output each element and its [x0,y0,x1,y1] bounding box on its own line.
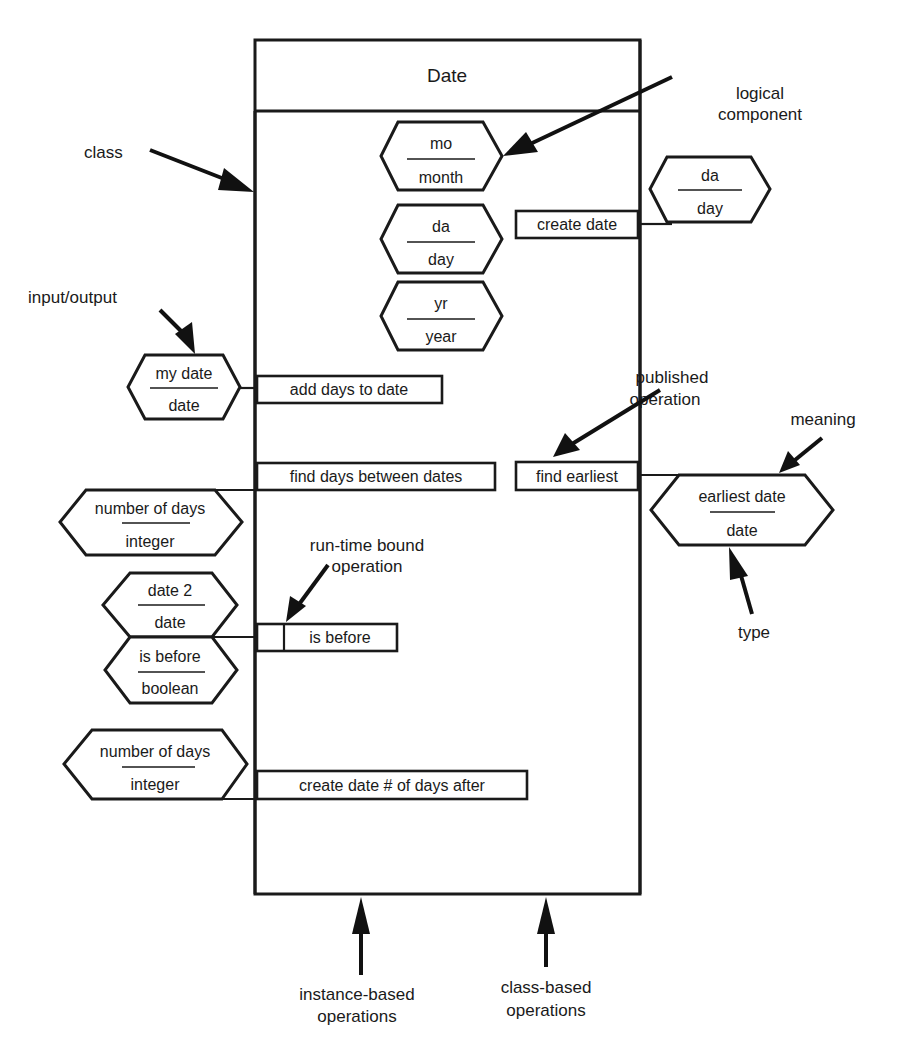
annotation-label: operation [630,390,701,409]
param-type: day [697,200,723,217]
annotation-label: published [636,368,709,387]
operation-label: find earliest [536,468,618,485]
component-type: month [419,169,463,186]
operation-find-days-between-dates[interactable]: find days between dates [88,463,495,490]
component-month[interactable]: mo month [381,122,502,190]
param-type: integer [131,776,181,793]
component-meaning: da [432,218,450,235]
annotation-meaning: meaning [779,410,856,473]
annotation-label: component [718,105,802,124]
annotation-type: type [729,547,770,642]
arrowhead-icon [553,433,580,457]
arrowhead-icon [352,897,370,934]
arrow-icon [150,150,232,182]
annotation-run-time-bound: run-time bound operation [286,536,424,622]
operation-label: create date # of days after [299,777,486,794]
operation-label: find days between dates [290,468,463,485]
annotation-class: class [84,143,254,192]
operation-label: is before [309,629,370,646]
param-number-of-days-1[interactable]: number of days integer [60,490,242,555]
component-meaning: mo [430,135,452,152]
param-type: boolean [142,680,199,697]
operation-create-date-days-after[interactable]: create date # of days after [257,771,527,799]
arrowhead-icon [218,168,254,192]
param-is-before[interactable]: is before boolean [105,637,237,703]
arrowhead-icon [537,897,555,934]
param-meaning: number of days [100,743,210,760]
arrow-icon [572,390,660,444]
annotation-label: input/output [28,288,117,307]
operation-create-date[interactable]: create date [516,211,672,238]
operation-add-days-to-date[interactable]: add days to date [257,376,442,403]
annotation-label: operation [332,557,403,576]
annotation-label: run-time bound [310,536,424,555]
param-meaning: is before [139,648,200,665]
annotation-label: class-based [501,978,592,997]
param-create-date-day[interactable]: da day [650,157,770,222]
annotation-label: type [738,623,770,642]
annotation-class-label: class [84,143,123,162]
class-name: Date [427,65,467,86]
annotation-label: instance-based [299,985,414,1004]
param-type: date [168,397,199,414]
annotation-logical-component: logical component [503,77,802,156]
param-meaning: date 2 [148,582,193,599]
date-class-diagram: Date mo month da day yr year create date… [0,0,897,1053]
operation-label: create date [537,216,617,233]
annotation-class-based-operations: class-based operations [501,897,592,1020]
component-type: year [425,328,457,345]
operation-is-before[interactable]: is before [257,624,397,651]
param-number-of-days-2[interactable]: number of days integer [64,730,258,799]
annotation-label: operations [317,1007,396,1026]
arrow-icon [795,438,822,460]
param-meaning: my date [156,365,213,382]
arrowhead-icon [503,132,538,156]
component-type: day [428,251,454,268]
component-day[interactable]: da day [381,205,502,273]
param-earliest-date[interactable]: earliest date date [651,475,833,545]
arrowhead-icon [779,451,800,473]
annotation-label: operations [506,1001,585,1020]
param-type: date [154,614,185,631]
arrow-icon [740,572,752,614]
param-meaning: da [701,167,719,184]
annotation-label: meaning [790,410,855,429]
arrow-icon [300,565,328,603]
annotation-instance-based-operations: instance-based operations [299,897,414,1026]
param-type: date [726,522,757,539]
component-year[interactable]: yr year [381,282,502,350]
component-meaning: yr [434,295,448,312]
arrowhead-icon [729,547,748,580]
annotation-published-operation: published operation [553,368,708,457]
param-meaning: earliest date [698,488,785,505]
param-my-date[interactable]: my date date [128,355,258,419]
annotation-input-output: input/output [28,288,195,354]
operation-label: add days to date [290,381,408,398]
param-meaning: number of days [95,500,205,517]
param-type: integer [126,533,176,550]
param-date-2[interactable]: date 2 date [103,573,237,637]
annotation-label: logical [736,84,784,103]
